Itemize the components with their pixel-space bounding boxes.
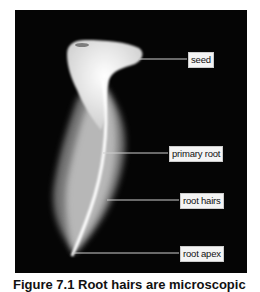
label-primary-root: primary root <box>169 146 223 162</box>
label-seed: seed <box>188 52 214 68</box>
figure-caption: Figure 7.1 Root hairs are microscopic <box>13 277 246 292</box>
seedling-photo: seed primary root root hairs root apex <box>15 10 247 273</box>
seedling-illustration <box>15 10 247 273</box>
label-root-hairs: root hairs <box>180 193 224 209</box>
label-root-apex: root apex <box>180 246 224 262</box>
